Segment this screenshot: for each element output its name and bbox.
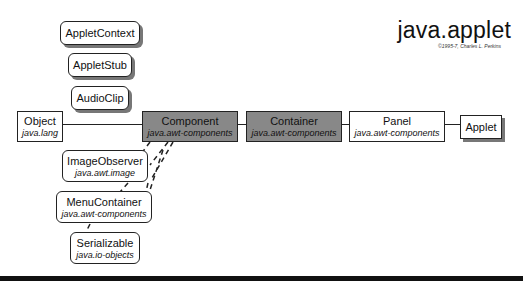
interface-name: ImageObserver [63,155,147,168]
interface-name: MenuContainer [57,196,151,209]
class-applet: Applet [460,115,502,139]
interface-package: java.awt.image [63,168,147,178]
class-name: Object [18,115,62,128]
class-package: java.lang [18,128,62,138]
class-package: java.awt-components [350,128,444,138]
class-container: Container java.awt-components [246,111,342,142]
interface-imageobserver: ImageObserver java.awt.image [62,150,148,182]
class-name: Container [247,115,341,128]
class-name: Panel [350,115,444,128]
interface-menucontainer: MenuContainer java.awt-components [56,191,152,223]
class-name: Applet [461,121,501,134]
interface-serializable: Serializable java.io-objects [70,232,140,264]
class-package: java.awt-components [143,128,237,138]
class-object: Object java.lang [17,111,63,142]
interface-package: java.io-objects [71,250,139,260]
class-name: Component [143,115,237,128]
interface-package: java.awt-components [57,209,151,219]
class-panel: Panel java.awt-components [349,111,445,142]
class-package: java.awt-components [247,128,341,138]
interface-name: Serializable [71,237,139,250]
class-component: Component java.awt-components [142,111,238,142]
bottom-rule [0,276,523,281]
